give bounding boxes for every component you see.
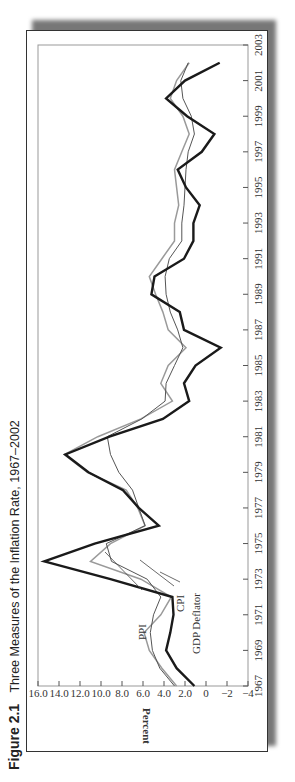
- x-tick-label: 1971: [252, 604, 264, 626]
- x-tick-label: 1969: [252, 639, 264, 662]
- cpi-label: CPI: [174, 595, 186, 612]
- y-tick-label: 0: [203, 687, 209, 699]
- x-tick-label: 2003: [252, 34, 264, 57]
- rotated-figure: Figure 2.1 Three Measures of the Inflati…: [0, 0, 295, 782]
- gdp-deflator-line: [106, 63, 194, 686]
- x-tick-label: 1987: [252, 318, 264, 341]
- y-axis: 16.014.012.010.08.06.04.02.00−2−4: [28, 681, 254, 699]
- x-tick-label: 1989: [252, 283, 264, 306]
- x-axis: 1967196919711973197519771979198119831985…: [243, 34, 264, 698]
- line-chart: 16.014.012.010.08.06.04.02.00−2−4 196719…: [0, 0, 295, 782]
- plot-area: [38, 45, 248, 686]
- x-tick-label: 1997: [252, 140, 264, 163]
- gdp-deflator-label: GDP Deflator: [190, 593, 202, 654]
- x-tick-label: 2001: [252, 70, 264, 92]
- y-tick-label: −2: [221, 687, 233, 699]
- y-axis-label: Percent: [141, 708, 153, 744]
- y-tick-label: 14.0: [49, 687, 69, 699]
- x-tick-label: 1983: [252, 390, 264, 413]
- x-tick-label: 1993: [252, 212, 264, 235]
- x-tick-label: 1975: [252, 532, 264, 555]
- x-tick-label: 1999: [252, 105, 264, 128]
- x-tick-label: 1967: [252, 675, 264, 698]
- ppi-label: PPI: [136, 624, 148, 640]
- x-tick-label: 1981: [252, 426, 264, 448]
- y-tick-label: 4.0: [157, 687, 171, 699]
- x-tick-label: 1973: [252, 568, 264, 591]
- x-tick-label: 1979: [252, 461, 264, 484]
- y-tick-label: 6.0: [136, 687, 150, 699]
- x-tick-label: 1995: [252, 176, 264, 199]
- x-tick-label: 1977: [252, 496, 264, 519]
- x-tick-label: 1985: [252, 354, 264, 377]
- y-tick-label: 16.0: [28, 687, 48, 699]
- series-labels: PPI CPI GDP Deflator: [105, 552, 202, 654]
- y-tick-label: 12.0: [70, 687, 90, 699]
- y-tick-label: 8.0: [115, 687, 129, 699]
- y-tick-label: 2.0: [178, 687, 192, 699]
- x-tick-label: 1991: [252, 248, 264, 270]
- y-tick-label: 10.0: [91, 687, 111, 699]
